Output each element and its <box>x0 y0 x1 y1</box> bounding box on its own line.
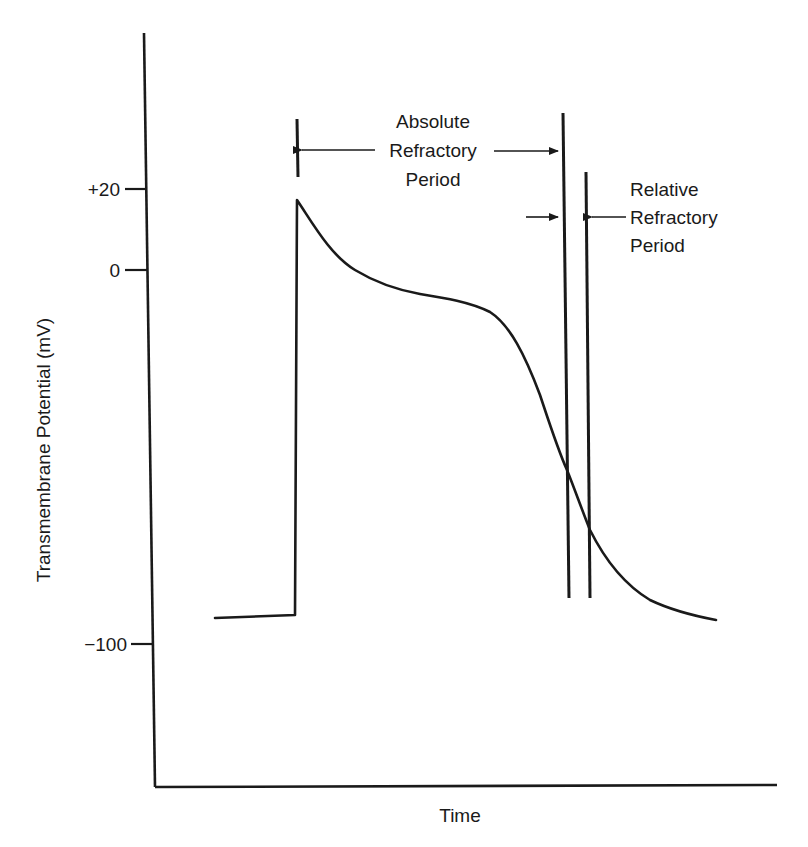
y-tick-label-zero: 0 <box>109 260 120 281</box>
y-tick-label-plus20: +20 <box>88 179 120 200</box>
relative-refractory-annotation: Relative Refractory Period <box>526 172 718 598</box>
absolute-label-line2: Refractory <box>389 140 477 161</box>
relative-label-line1: Relative <box>630 179 699 200</box>
relative-label-line3: Period <box>630 235 685 256</box>
y-tick-label-minus100: −100 <box>84 634 127 655</box>
y-axis-title: Transmembrane Potential (mV) <box>33 318 54 582</box>
x-axis-title: Time <box>439 805 481 826</box>
action-potential-curve <box>215 200 716 620</box>
absolute-end-bar <box>563 113 569 598</box>
absolute-label-line3: Period <box>406 169 461 190</box>
absolute-refractory-annotation: Absolute Refractory Period <box>297 111 569 598</box>
action-potential-diagram: +20 0 −100 Transmembrane Potential (mV) … <box>0 0 808 847</box>
y-axis <box>144 33 155 787</box>
x-axis <box>155 785 777 787</box>
relative-label-line2: Refractory <box>630 207 718 228</box>
absolute-label-line1: Absolute <box>396 111 470 132</box>
relative-end-bar <box>586 172 590 598</box>
absolute-start-bar <box>297 119 298 177</box>
